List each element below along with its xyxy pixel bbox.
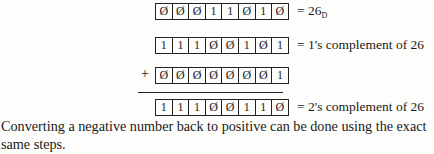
bit-cell: 1	[172, 99, 189, 116]
bit-cell: Ø	[188, 3, 205, 20]
bit-cell: 1	[271, 67, 289, 84]
bit-cell: Ø	[238, 67, 255, 84]
bit-cell: 1	[172, 37, 189, 54]
bit-cell: Ø	[238, 3, 255, 20]
bit-cell: 1	[155, 99, 172, 116]
row-label-twos-complement: = 2's complement of 26	[297, 99, 424, 115]
bit-cell: Ø	[205, 67, 222, 84]
binary-row-26: Ø Ø Ø 1 1 Ø 1 Ø	[155, 3, 289, 20]
row-label-ones-complement: = 1's complement of 26	[297, 37, 424, 53]
binary-row-ones-complement: 1 1 1 Ø Ø 1 Ø 1	[155, 37, 289, 54]
bit-cell: 1	[255, 99, 272, 116]
bit-cell: 1	[205, 3, 222, 20]
label-subscript: D	[322, 11, 328, 20]
binary-row-addend: Ø Ø Ø Ø Ø Ø Ø 1	[155, 67, 289, 84]
bit-cell: Ø	[188, 67, 205, 84]
sum-divider-line	[138, 92, 283, 93]
bit-cell: Ø	[221, 67, 238, 84]
bit-cell: Ø	[172, 67, 189, 84]
bit-cell: Ø	[205, 99, 222, 116]
label-text: = 26	[297, 3, 322, 18]
bit-cell: 1	[255, 3, 272, 20]
bit-cell: Ø	[155, 67, 172, 84]
bit-cell: Ø	[205, 37, 222, 54]
bit-cell: 1	[238, 37, 255, 54]
bit-cell: 1	[188, 37, 205, 54]
plus-operator: +	[141, 66, 149, 82]
bit-cell: Ø	[172, 3, 189, 20]
bit-cell: Ø	[255, 67, 272, 84]
bit-cell: Ø	[221, 37, 238, 54]
bit-cell: Ø	[155, 3, 172, 20]
bit-cell: Ø	[271, 3, 289, 20]
bit-cell: 1	[155, 37, 172, 54]
bit-cell: 1	[188, 99, 205, 116]
binary-row-twos-complement: 1 1 1 Ø Ø 1 1 Ø	[155, 99, 289, 116]
row-label-decimal: = 26D	[297, 3, 327, 20]
bit-cell: 1	[221, 3, 238, 20]
bit-cell: 1	[238, 99, 255, 116]
bit-cell: Ø	[221, 99, 238, 116]
bit-cell: Ø	[271, 99, 289, 116]
body-paragraph: Converting a negative number back to pos…	[1, 117, 433, 153]
bit-cell: Ø	[255, 37, 272, 54]
bit-cell: 1	[271, 37, 289, 54]
